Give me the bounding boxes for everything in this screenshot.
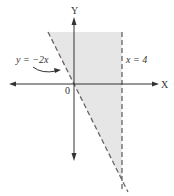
y-axis-up-arrow-icon (72, 17, 77, 25)
origin-label: 0 (65, 85, 70, 96)
label-y-equals-neg2x: y = −2x (15, 54, 49, 65)
y-axis-label: Y (71, 5, 78, 16)
x-axis-label: X (161, 79, 169, 90)
x-axis-right-arrow-icon (152, 82, 159, 87)
pointer-arrow-head-icon (54, 68, 61, 73)
y-axis-down-arrow-icon (72, 153, 77, 161)
label-x-equals-4: x = 4 (125, 54, 147, 65)
x-axis-left-arrow-icon (9, 82, 16, 87)
pointer-arrow-curve (33, 67, 56, 72)
graph: Y X 0 y = −2x x = 4 (0, 0, 174, 196)
